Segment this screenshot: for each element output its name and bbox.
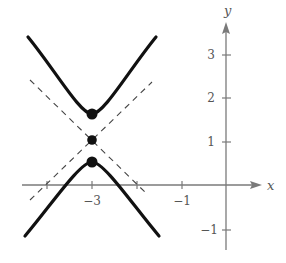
y-tick-label-2: 2: [207, 91, 215, 105]
x-tick-label-minus3: −3: [83, 194, 101, 208]
hyperbola-upper-branch: [28, 37, 156, 114]
y-axis-label: y: [223, 3, 232, 18]
y-tick-label-3: 3: [207, 48, 215, 62]
x-axis-label: x: [267, 178, 275, 193]
center-point: [87, 135, 97, 145]
upper-vertex-point: [87, 109, 98, 120]
y-tick-label-1: 1: [207, 135, 215, 149]
y-tick-label-minus1: −1: [200, 223, 218, 237]
lower-vertex-point: [87, 157, 98, 168]
x-tick-label-minus1: −1: [173, 194, 191, 208]
hyperbola-graph: −3 −1 3 2 1 −1 x y: [0, 0, 286, 263]
